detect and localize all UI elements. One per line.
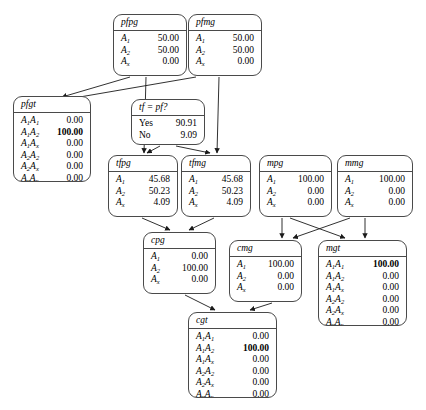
node-pfgt-rows: A1A1 0.00 A1A2 100.00 A1Ax 0.00 A2A2 0.0… — [14, 113, 90, 182]
row-label: A1Ax — [326, 282, 344, 294]
table-row: A2 50.23 — [182, 186, 250, 198]
row-value: 4.09 — [226, 197, 243, 209]
row-value: 45.68 — [222, 174, 243, 186]
node-mpg[interactable]: mpg A1 100.00 A2 0.00 Ax 0.00 — [259, 155, 332, 217]
node-tf-equals-pf-decision[interactable]: tf = pf? Yes 90.91 No 9.09 — [131, 99, 205, 145]
table-row: A1 50.00 — [189, 33, 261, 45]
row-value: 0.00 — [382, 282, 399, 294]
table-row: A1Ax 0.00 — [189, 354, 276, 366]
table-row: A1 0.00 — [144, 251, 215, 263]
table-row: A1A2 100.00 — [14, 127, 90, 139]
row-label: A2 — [121, 45, 130, 57]
row-label: AxAx — [326, 317, 343, 327]
table-row: A1A1 0.00 — [189, 331, 276, 343]
node-pfpg-rows: A1 50.00 A2 50.00 Ax 0.00 — [114, 31, 186, 70]
row-value: 0.00 — [388, 186, 405, 198]
node-cpg[interactable]: cpg A1 0.00 A2 100.00 Ax 0.00 — [143, 232, 216, 294]
table-row: Yes 90.91 — [132, 118, 204, 130]
row-value: 4.09 — [153, 197, 170, 209]
table-row: A2Ax 0.00 — [319, 305, 406, 317]
node-mgt[interactable]: mgt A1A1 100.00 A1A2 0.00 A1Ax 0.00 A2A2… — [318, 240, 407, 326]
row-value: 0.00 — [66, 138, 83, 150]
row-label: AxAx — [21, 173, 38, 183]
table-row: A2 50.23 — [109, 186, 177, 198]
row-value: 0.00 — [277, 271, 294, 283]
row-label: A2 — [345, 186, 354, 198]
table-row: A1 100.00 — [338, 174, 412, 186]
row-value: 0.00 — [388, 197, 405, 209]
row-label: Yes — [139, 118, 153, 130]
row-label: A1 — [189, 174, 198, 186]
edge-mpg-mgt — [290, 218, 345, 238]
row-label: A2 — [237, 271, 246, 283]
row-label: Ax — [116, 197, 125, 209]
node-cmg[interactable]: cmg A1 100.00 A2 0.00 Ax 0.00 — [229, 240, 302, 302]
node-pfgt[interactable]: pfgt A1A1 0.00 A1A2 100.00 A1Ax 0.00 A2A… — [13, 96, 91, 182]
table-row: A1Ax 0.00 — [14, 138, 90, 150]
table-row: A2 0.00 — [338, 186, 412, 198]
row-label: Ax — [151, 274, 160, 286]
row-label: A2 — [151, 263, 160, 275]
node-tfmg[interactable]: tfmg A1 45.68 A2 50.23 Ax 4.09 — [181, 155, 251, 217]
node-tf-equals-pf-rows: Yes 90.91 No 9.09 — [132, 116, 204, 143]
row-value: 0.00 — [162, 56, 179, 68]
edge-decision-tfmg — [176, 146, 210, 153]
row-value: 100.00 — [57, 127, 83, 139]
row-label: A1A1 — [196, 331, 214, 343]
table-row: A2 0.00 — [260, 186, 331, 198]
table-row: A2A2 0.00 — [319, 294, 406, 306]
row-label: A1A2 — [196, 343, 214, 355]
row-label: A2A2 — [21, 150, 39, 162]
table-row: A2A2 0.00 — [189, 366, 276, 378]
row-value: 50.00 — [233, 33, 254, 45]
edge-tfpg-cpg — [142, 218, 170, 230]
row-label: A2Ax — [196, 377, 214, 389]
row-label: A1 — [116, 174, 125, 186]
edge-pfmg-pfgt — [68, 77, 196, 99]
row-value: 0.00 — [307, 186, 324, 198]
node-tfpg-rows: A1 45.68 A2 50.23 Ax 4.09 — [109, 172, 177, 211]
row-value: 0.00 — [252, 331, 269, 343]
table-row: A1A1 100.00 — [319, 259, 406, 271]
row-label: A2 — [267, 186, 276, 198]
node-pfpg[interactable]: pfpg A1 50.00 A2 50.00 Ax 0.00 — [113, 14, 187, 76]
row-value: 0.00 — [382, 271, 399, 283]
row-label: A2Ax — [326, 305, 344, 317]
node-cgt-rows: A1A1 0.00 A1A2 100.00 A1Ax 0.00 A2A2 0.0… — [189, 329, 276, 398]
node-cgt[interactable]: cgt A1A1 0.00 A1A2 100.00 A1Ax 0.00 A2A2… — [188, 312, 277, 398]
row-value: 100.00 — [298, 174, 324, 186]
node-tf-equals-pf-title: tf = pf? — [132, 100, 204, 116]
row-value: 0.00 — [382, 294, 399, 306]
row-value: 50.00 — [158, 45, 179, 57]
row-label: Ax — [121, 56, 130, 68]
node-pfmg[interactable]: pfmg A1 50.00 A2 50.00 Ax 0.00 — [188, 14, 262, 76]
node-tfmg-rows: A1 45.68 A2 50.23 Ax 4.09 — [182, 172, 250, 211]
node-mgt-title: mgt — [319, 241, 406, 257]
edge-tfmg-cpg — [189, 218, 214, 230]
row-label: A1 — [151, 251, 160, 263]
table-row: A1 100.00 — [230, 259, 301, 271]
node-mpg-title: mpg — [260, 156, 331, 172]
row-value: 0.00 — [191, 274, 208, 286]
row-value: 0.00 — [252, 389, 269, 399]
table-row: No 9.09 — [132, 130, 204, 142]
node-tfpg[interactable]: tfpg A1 45.68 A2 50.23 Ax 4.09 — [108, 155, 178, 217]
node-mmg[interactable]: mmg A1 100.00 A2 0.00 Ax 0.00 — [337, 155, 413, 217]
row-label: A1A2 — [21, 127, 39, 139]
row-value: 0.00 — [382, 317, 399, 327]
table-row: A2Ax 0.00 — [189, 377, 276, 389]
node-pfmg-rows: A1 50.00 A2 50.00 Ax 0.00 — [189, 31, 261, 70]
row-label: A2A2 — [196, 366, 214, 378]
row-value: 90.91 — [176, 118, 197, 130]
node-cmg-title: cmg — [230, 241, 301, 257]
node-mmg-title: mmg — [338, 156, 412, 172]
table-row: Ax 0.00 — [260, 197, 331, 209]
row-value: 0.00 — [66, 173, 83, 183]
row-value: 0.00 — [66, 150, 83, 162]
row-label: Ax — [237, 282, 246, 294]
node-cgt-title: cgt — [189, 313, 276, 329]
row-label: Ax — [189, 197, 198, 209]
row-label: A2 — [189, 186, 198, 198]
edge-decision-tfpg — [147, 146, 160, 153]
row-value: 45.68 — [149, 174, 170, 186]
